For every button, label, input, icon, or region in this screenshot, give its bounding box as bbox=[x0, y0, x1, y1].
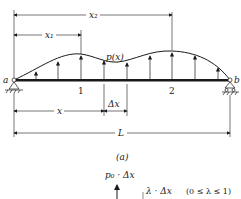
dim-x2-label: x₂ bbox=[89, 10, 98, 20]
dimension-x1: x₁ bbox=[14, 28, 81, 40]
dim-L-label: L bbox=[117, 128, 124, 138]
beam-diagram: x₂ x₁ p(x) a bbox=[0, 0, 241, 199]
dimension-L: L bbox=[14, 126, 230, 138]
point-2-label: 2 bbox=[169, 86, 175, 96]
support-left-label: a bbox=[3, 75, 8, 85]
dim-x-label: x bbox=[57, 106, 62, 116]
lambda-range: (0 ≤ λ ≤ 1) bbox=[186, 187, 231, 196]
load-arrows bbox=[36, 53, 218, 80]
dimension-dx: Δx bbox=[104, 99, 127, 111]
lambda-label: λ · Δx bbox=[145, 186, 172, 196]
support-right-label: b bbox=[234, 75, 240, 85]
load-label: p(x) bbox=[106, 52, 124, 62]
dimension-x2: x₂ bbox=[14, 8, 172, 20]
figure-caption: (a) bbox=[116, 152, 129, 162]
point-1-label: 1 bbox=[78, 86, 84, 96]
dim-x1-label: x₁ bbox=[45, 30, 54, 40]
dimension-x: x bbox=[14, 104, 104, 116]
beam bbox=[14, 79, 230, 82]
dim-dx-label: Δx bbox=[107, 99, 120, 109]
force-label: p₀ · Δx bbox=[105, 170, 135, 180]
